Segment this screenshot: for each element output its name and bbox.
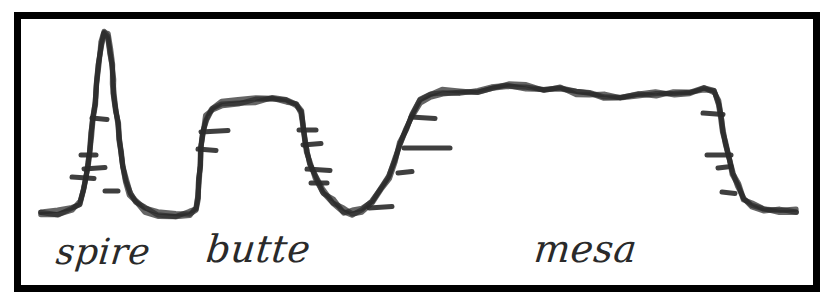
landform-diagram-figure: spire butte mesa xyxy=(0,0,834,298)
stratum-tick-mesa xyxy=(722,192,735,193)
landform-diagram-canvas: spire butte mesa xyxy=(0,0,834,298)
stratum-tick-mesa xyxy=(411,117,435,118)
stratum-tick-mesa xyxy=(703,113,723,114)
stratum-tick-spire xyxy=(72,177,94,178)
stratum-tick-spire xyxy=(84,167,105,168)
stratum-tick-butte xyxy=(307,169,330,170)
label-mesa: mesa xyxy=(532,227,639,271)
stratum-tick-butte xyxy=(369,206,392,207)
stratum-tick-mesa xyxy=(718,166,731,167)
stratum-tick-spire xyxy=(92,118,107,119)
stratum-tick-butte xyxy=(201,130,228,131)
stratum-tick-butte xyxy=(303,143,321,144)
label-butte: butte xyxy=(204,227,313,271)
stratum-tick-mesa xyxy=(398,171,412,172)
label-spire: spire xyxy=(54,231,152,273)
stratum-tick-butte xyxy=(198,149,216,150)
